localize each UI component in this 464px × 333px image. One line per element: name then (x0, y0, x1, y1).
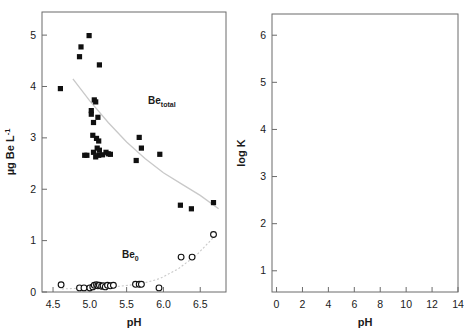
x-tick-label: 14 (452, 298, 464, 310)
data-point-be-total (78, 44, 83, 49)
y-tick-label: 2 (260, 217, 266, 229)
data-point-be-total (157, 152, 162, 157)
data-point-be-zero (156, 285, 162, 291)
annotation-be-zero: Be0 (122, 249, 139, 262)
y-tick-label: 2 (30, 183, 36, 195)
y-axis-title: log K (235, 139, 247, 167)
data-point-be-total (137, 135, 142, 140)
y-tick-label: 0 (30, 286, 36, 298)
data-point-be-zero (189, 254, 195, 260)
plot-frame (272, 14, 458, 292)
data-point-be-total (84, 153, 89, 158)
data-point-be-total (97, 62, 102, 67)
data-point-be-total (58, 86, 63, 91)
data-point-be-total (93, 99, 98, 104)
annotation-be-total: Betotal (148, 95, 176, 108)
y-axis-title: µg Be L-1 (3, 129, 16, 176)
x-tick-label: 10 (400, 298, 412, 310)
data-point-be-total (211, 200, 216, 205)
data-point-be-total (97, 148, 102, 153)
data-point-be-zero (58, 282, 64, 288)
y-tick-label: 3 (30, 131, 36, 143)
logkd-vs-ph-scatter-plot: 12345602468101214pHlog K (232, 0, 464, 333)
y-tick-label: 5 (30, 29, 36, 41)
be-vs-ph-scatter-plot: 0123454.55.05.56.06.5pHµg Be L-1BetotalB… (0, 0, 232, 333)
x-tick-label: 6 (351, 298, 357, 310)
x-tick-label: 0 (274, 298, 280, 310)
x-tick-label: 6.0 (156, 298, 171, 310)
y-tick-label: 3 (260, 170, 266, 182)
svg-text:log K: log K (235, 139, 247, 167)
data-point-be-total (178, 203, 183, 208)
data-point-be-zero (81, 285, 87, 291)
be-zero-trend-line (62, 235, 217, 289)
data-point-be-total (87, 33, 92, 38)
data-point-be-total (108, 152, 113, 157)
data-point-be-total (89, 112, 94, 117)
y-tick-label: 5 (260, 76, 266, 88)
data-point-be-zero (111, 282, 117, 288)
x-tick-label: 5.0 (83, 298, 98, 310)
right-chart-panel: 12345602468101214pHlog K (232, 0, 464, 333)
y-tick-label: 1 (30, 234, 36, 246)
x-tick-label: 4 (325, 298, 331, 310)
x-tick-label: 8 (377, 298, 383, 310)
data-point-be-zero (178, 254, 184, 260)
data-point-be-zero (139, 281, 145, 287)
y-tick-label: 1 (260, 264, 266, 276)
x-tick-label: 2 (300, 298, 306, 310)
left-chart-panel: 0123454.55.05.56.06.5pHµg Be L-1BetotalB… (0, 0, 232, 333)
data-point-be-total (134, 158, 139, 163)
data-point-be-total (93, 154, 98, 159)
x-tick-label: 4.5 (46, 298, 61, 310)
y-tick-label: 6 (260, 29, 266, 41)
x-axis-title: pH (127, 316, 142, 328)
data-point-be-total (96, 138, 101, 143)
data-point-be-total (91, 150, 96, 155)
data-point-be-zero (211, 232, 217, 238)
data-point-be-total (77, 54, 82, 59)
data-point-be-total (95, 115, 100, 120)
svg-text:µg Be L-1: µg Be L-1 (3, 129, 16, 176)
y-tick-label: 4 (260, 123, 266, 135)
x-tick-label: 12 (426, 298, 438, 310)
x-tick-label: 5.5 (119, 298, 134, 310)
y-tick-label: 4 (30, 80, 36, 92)
data-point-be-total (189, 206, 194, 211)
data-point-be-total (139, 146, 144, 151)
x-tick-label: 6.5 (193, 298, 208, 310)
x-axis-title: pH (358, 316, 373, 328)
data-point-be-total (91, 120, 96, 125)
series-be-total (58, 33, 216, 211)
